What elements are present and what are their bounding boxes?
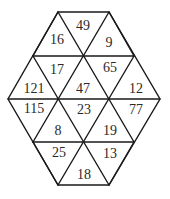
diag-line: [33, 56, 109, 185]
cell-value: 12: [129, 81, 143, 96]
cell-value: 115: [24, 101, 44, 116]
diag-line: [58, 56, 134, 185]
cell-value: 121: [24, 81, 45, 96]
cell-value: 23: [77, 102, 91, 117]
cell-value: 47: [76, 81, 90, 96]
cell-value: 77: [129, 102, 143, 117]
cell-value: 18: [77, 167, 91, 182]
diag-line: [109, 12, 134, 56]
cell-value: 9: [106, 35, 113, 50]
cell-value: 19: [103, 123, 117, 138]
diag-line: [33, 12, 109, 142]
hexagon-puzzle: 16 49 9 121 17 47 65 12 115 8 23 19 77 2…: [0, 0, 170, 199]
cell-value: 17: [50, 62, 64, 77]
cell-value: 49: [76, 18, 90, 33]
cell-value: 8: [55, 123, 62, 138]
cell-value: 65: [103, 60, 117, 75]
diag-line: [58, 12, 134, 142]
cell-value: 16: [50, 32, 64, 47]
cell-value: 25: [52, 145, 66, 160]
cell-value: 13: [103, 146, 117, 161]
grid-lines: [8, 12, 160, 185]
